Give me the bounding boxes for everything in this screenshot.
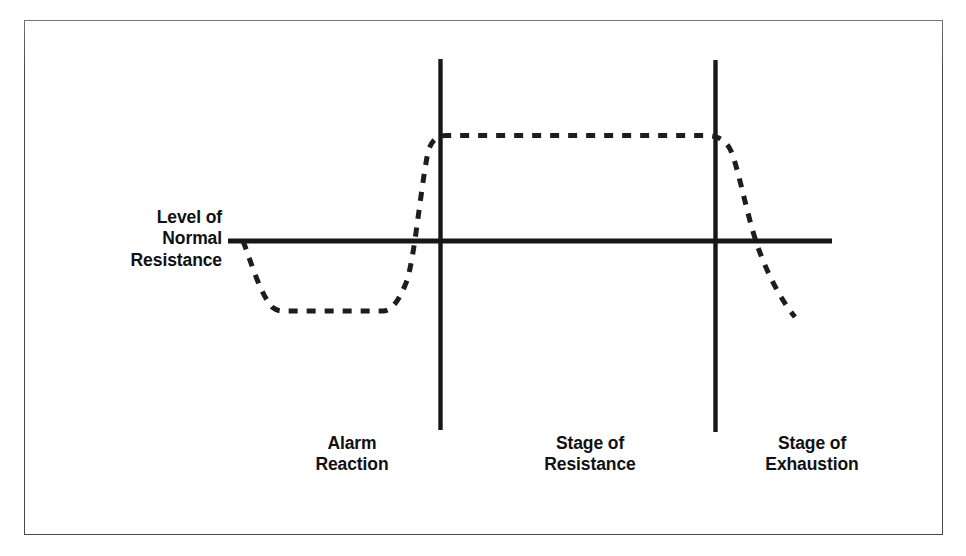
resistance-curve-dashed (243, 136, 795, 318)
stage-label-alarm-reaction: Alarm Reaction (262, 433, 442, 476)
y-axis-level-of-normal-resistance-label: Level of Normal Resistance (92, 207, 222, 271)
stage-label-stage-of-exhaustion: Stage of Exhaustion (712, 433, 912, 476)
stage-label-stage-of-resistance: Stage of Resistance (490, 433, 690, 476)
figure-root: Level of Normal Resistance Alarm Reactio… (0, 0, 966, 556)
